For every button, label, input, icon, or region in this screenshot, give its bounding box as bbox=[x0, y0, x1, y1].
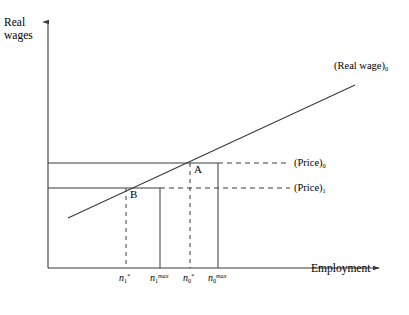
y-axis-title-line1: Real bbox=[4, 16, 25, 28]
tick-n0-max-sup: max bbox=[216, 272, 226, 279]
tick-n1-star-sup: * bbox=[127, 272, 130, 279]
point-a-label: A bbox=[194, 163, 202, 175]
point-b-label: B bbox=[130, 188, 137, 200]
real-wage-curve-label-text: (Real wage) bbox=[334, 60, 385, 71]
real-wage-curve-label: (Real wage)0 bbox=[334, 60, 388, 72]
y-axis-title-line2: wages bbox=[4, 29, 48, 42]
price0-label-sub: 0 bbox=[323, 162, 326, 169]
tick-label-n0-star: n0* bbox=[183, 272, 194, 285]
real-wage-curve bbox=[68, 85, 355, 218]
price1-label-sub: 1 bbox=[323, 187, 326, 194]
x-axis-title: Employment bbox=[311, 262, 370, 275]
economics-diagram-figure: Real wages Employment (Real wage)0 (Pric… bbox=[0, 0, 409, 315]
y-axis-title: Real wages bbox=[4, 16, 48, 42]
price1-label: (Price)1 bbox=[294, 182, 326, 194]
real-wage-curve-label-sub: 0 bbox=[385, 65, 388, 72]
tick-label-n1-star: n1* bbox=[119, 272, 130, 285]
price1-label-text: (Price) bbox=[294, 182, 323, 193]
tick-label-n1-max: n1max bbox=[150, 272, 168, 285]
tick-n1-max-sup: max bbox=[158, 272, 168, 279]
tick-n0-star-sup: * bbox=[191, 272, 194, 279]
tick-label-n0-max: n0max bbox=[208, 272, 226, 285]
price0-label: (Price)0 bbox=[294, 157, 326, 169]
price0-label-text: (Price) bbox=[294, 157, 323, 168]
